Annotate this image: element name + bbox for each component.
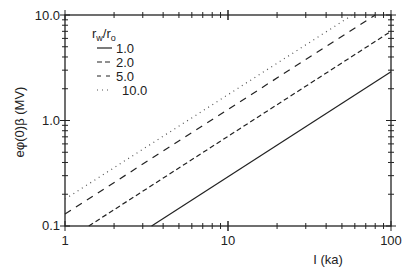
plot-area [60, 10, 396, 231]
legend-entry-1: 1.0 [116, 41, 134, 56]
y-tick-label-1.0: 1.0 [42, 113, 60, 128]
series-line-5.0 [65, 15, 375, 214]
series-line-10.0 [65, 15, 352, 199]
chart: 1 10 100 0.1 1.0 10.0 I (ka) eφ(0)β (MV)… [0, 0, 412, 272]
legend-entry-2: 2.0 [116, 55, 134, 70]
series-line-1.0 [152, 72, 391, 226]
series-line-2.0 [89, 31, 391, 226]
x-tick-label-10: 10 [221, 233, 235, 248]
y-tick-label-0.1: 0.1 [42, 218, 60, 233]
legend: rw/ro 1.0 2.0 5.0 10.0 [92, 26, 147, 98]
y-tick-label-10.0: 10.0 [35, 8, 60, 23]
series-lines [65, 15, 391, 226]
y-ticks [60, 15, 396, 226]
y-axis-label: eφ(0)β (MV) [12, 87, 27, 158]
plot-frame [65, 15, 391, 226]
x-axis-label: I (ka) [313, 252, 343, 267]
legend-entry-3: 5.0 [116, 69, 134, 84]
x-tick-label-100: 100 [380, 233, 402, 248]
legend-title: rw/ro [92, 26, 116, 43]
legend-entry-4: 10.0 [122, 83, 147, 98]
x-ticks [65, 10, 391, 231]
x-tick-label-1: 1 [61, 233, 68, 248]
